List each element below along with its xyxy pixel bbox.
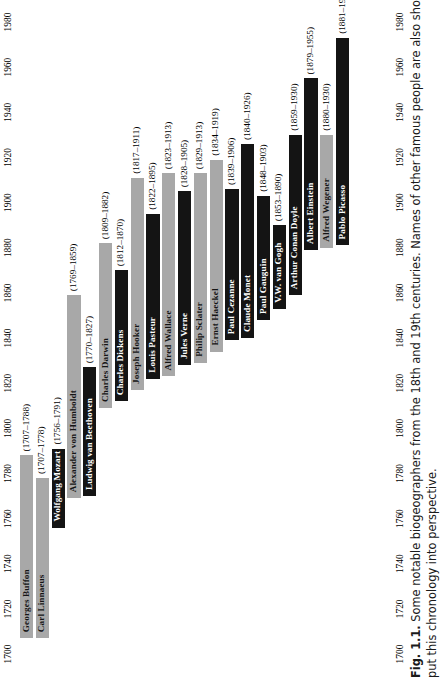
figure-caption-line1: Some notable biogeographers from the 18t… (409, 0, 423, 622)
axis-tick-label: 1880 (392, 238, 408, 257)
timeline-bar: Claude Monet (241, 144, 254, 338)
timeline-bar-name: Alexander von Humboldt (69, 390, 78, 492)
timeline-bar-years: (1828–1905) (180, 140, 189, 187)
timeline-bar-name: Philip Sclater (196, 302, 205, 357)
timeline-bar-years: (1880–1930) (322, 83, 331, 130)
time-axis-right: 1700172017401760178018001820184018601880… (392, 0, 408, 678)
timeline-bar-years: (1859–1930) (290, 83, 299, 130)
timeline-bar-years: (1834–1919) (211, 108, 220, 155)
timeline-bar-years: (1879–1955) (306, 27, 315, 74)
timeline-bar-years: (1829–1913) (195, 122, 204, 169)
axis-tick-label: 1900 (0, 193, 16, 212)
timeline-bar-years: (1707–1788) (22, 404, 31, 451)
timeline-bar-name: Jules Verne (180, 313, 189, 359)
timeline-bar-years: (1769–1859) (69, 244, 78, 291)
timeline-bar: Charles Dickens (115, 270, 128, 401)
axis-tick-label: 1740 (392, 554, 408, 573)
axis-tick-label: 1860 (0, 283, 16, 302)
axis-tick-label: 1920 (0, 148, 16, 167)
axis-tick-label: 1740 (0, 554, 16, 573)
timeline-bar: Pablo Picasso (336, 38, 349, 246)
timeline-bar-years: (1853–1890) (274, 174, 283, 221)
timeline-bar-name: Arthur Conan Doyle (291, 206, 300, 289)
timeline-bar: Carl Linnaeus (36, 478, 49, 638)
timeline-bar-years: (1809–1882) (101, 192, 110, 239)
timeline-plot-area: Georges Buffon(1707–1788)Carl Linnaeus(1… (0, 0, 442, 678)
axis-tick-label: 1880 (0, 238, 16, 257)
timeline-bar-years: (1817–1911) (132, 127, 141, 174)
timeline-bar-name: Charles Dickens (117, 330, 126, 396)
axis-tick-label: 1940 (0, 103, 16, 122)
timeline-bar-name: Alfred Wallace (164, 310, 173, 370)
timeline-bar-name: Charles Darwin (101, 338, 110, 402)
timeline-bar-name: Alfred Wegener (322, 178, 331, 242)
axis-tick-label: 1840 (392, 329, 408, 348)
timeline-bar: Louis Pasteur (146, 214, 159, 379)
timeline-bar-years: (1881–1973) (338, 0, 347, 34)
timeline-figure: Georges Buffon(1707–1788)Carl Linnaeus(1… (0, 0, 442, 678)
axis-tick-label: 1920 (392, 148, 408, 167)
timeline-bar: Charles Darwin (99, 243, 112, 408)
axis-tick-label: 1700 (392, 645, 408, 664)
axis-tick-label: 1700 (0, 645, 16, 664)
axis-tick-label: 1820 (0, 374, 16, 393)
axis-tick-label: 1720 (0, 599, 16, 618)
timeline-bar: Wolfgang Mozart (52, 449, 65, 528)
timeline-bar-name: Pablo Picasso (338, 185, 347, 240)
timeline-bar-name: Paul Gauguin (259, 258, 268, 314)
axis-tick-label: 1800 (0, 419, 16, 438)
timeline-bar-name: V.W. van Gogh (275, 243, 284, 303)
time-axis-left: 1700172017401760178018001820184018601880… (0, 0, 16, 678)
timeline-bar: Arthur Conan Doyle (289, 135, 302, 295)
timeline-bar-years: (1848–1903) (259, 144, 268, 191)
axis-tick-label: 1800 (392, 419, 408, 438)
timeline-bar: Paul Cezanne (225, 189, 238, 340)
axis-tick-label: 1900 (392, 193, 408, 212)
timeline-bar: Alfred Wallace (162, 173, 175, 376)
timeline-bar-name: Ludwig van Beethoven (85, 398, 94, 490)
timeline-bar-name: Louis Pasteur (148, 317, 157, 373)
timeline-bar: Paul Gauguin (257, 196, 270, 320)
timeline-bar-years: (1840–1926) (243, 92, 252, 139)
axis-tick-label: 1760 (0, 509, 16, 528)
timeline-bar: Joseph Hooker (131, 178, 144, 390)
timeline-bar-name: Albert Einstein (306, 183, 315, 244)
axis-tick-label: 1980 (0, 13, 16, 32)
timeline-bar-years: (1822–1895) (148, 162, 157, 209)
timeline-bar-name: Ernst Haeckel (212, 288, 221, 345)
timeline-bar-name: Claude Monet (243, 275, 252, 332)
timeline-bar-name: Paul Cezanne (227, 279, 236, 334)
figure-caption-line2: put this chronology into perspective. (424, 0, 440, 678)
axis-tick-label: 1960 (392, 58, 408, 77)
timeline-bar-name: Wolfgang Mozart (54, 451, 63, 522)
timeline-bar: V.W. van Gogh (273, 225, 286, 309)
timeline-bar: Ludwig van Beethoven (83, 367, 96, 496)
figure-caption: Fig. 1.1. Some notable biogeographers fr… (408, 0, 440, 678)
axis-tick-label: 1820 (392, 374, 408, 393)
timeline-bar-years: (1756–1791) (53, 397, 62, 444)
axis-tick-label: 1780 (392, 464, 408, 483)
axis-tick-label: 1760 (392, 509, 408, 528)
timeline-bar-years: (1812–1870) (116, 219, 125, 266)
timeline-bar-name: Joseph Hooker (133, 324, 142, 384)
axis-tick-label: 1780 (0, 464, 16, 483)
timeline-bar: Philip Sclater (194, 173, 207, 363)
timeline-bar-name: Carl Linnaeus (38, 574, 47, 632)
timeline-bar: Albert Einstein (304, 78, 317, 250)
timeline-bar: Georges Buffon (20, 455, 33, 638)
axis-tick-label: 1960 (0, 58, 16, 77)
timeline-bar: Jules Verne (178, 191, 191, 365)
timeline-bar-years: (1839–1906) (227, 138, 236, 185)
timeline-bar-name: Georges Buffon (22, 569, 31, 632)
timeline-bar: Alfred Wegener (320, 135, 333, 248)
axis-tick-label: 1720 (392, 599, 408, 618)
timeline-bar: Alexander von Humboldt (67, 295, 80, 498)
timeline-bar-years: (1823–1913) (164, 122, 173, 169)
timeline-bar-years: (1770–1827) (85, 316, 94, 363)
axis-tick-label: 1840 (0, 329, 16, 348)
figure-number: Fig. 1.1. (409, 625, 423, 678)
timeline-bar-years: (1707–1778) (37, 426, 46, 473)
timeline-bar: Ernst Haeckel (210, 160, 223, 352)
axis-tick-label: 1980 (392, 13, 408, 32)
axis-tick-label: 1860 (392, 283, 408, 302)
